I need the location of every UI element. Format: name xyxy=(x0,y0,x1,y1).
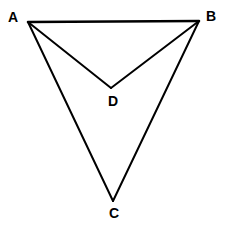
segment-ab xyxy=(28,21,199,22)
vertex-label-d: D xyxy=(108,94,118,108)
vertex-label-c: C xyxy=(109,206,119,220)
vertex-label-b: B xyxy=(206,9,216,23)
triangle-diagram xyxy=(0,0,225,227)
vertex-label-a: A xyxy=(8,10,18,24)
geometry-figure: A B D C xyxy=(0,0,225,227)
